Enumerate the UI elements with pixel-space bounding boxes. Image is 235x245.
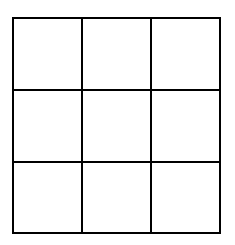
grid-cell-r1-c3 (151, 18, 220, 90)
grid-cell-r2-c2 (82, 90, 151, 162)
grid-cell-r3-c1 (13, 162, 82, 233)
grid-cell-r2-c3 (151, 90, 220, 162)
grid-cell-r3-c2 (82, 162, 151, 233)
grid-3x3 (0, 0, 235, 245)
grid-cell-r1-c1 (13, 18, 82, 90)
grid-cell-r3-c3 (151, 162, 220, 233)
grid-cell-r1-c2 (82, 18, 151, 90)
grid-cell-r2-c1 (13, 90, 82, 162)
